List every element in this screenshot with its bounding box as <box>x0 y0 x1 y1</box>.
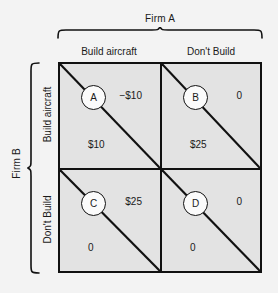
cell-node-label-c: C <box>81 191 106 216</box>
cell-node-label-a: A <box>81 85 106 110</box>
diagonal-divider-icon <box>162 170 260 271</box>
diagonal-divider-icon <box>60 64 160 168</box>
payoff-firm-a-cell-b: 0 <box>236 90 242 101</box>
diagonal-divider-icon <box>60 170 160 271</box>
payoff-firm-b-cell-d: 0 <box>190 242 196 253</box>
column-header-build-aircraft: Build aircraft <box>58 46 160 57</box>
payoff-firm-a-cell-a: −$10 <box>119 90 142 101</box>
top-brace-icon <box>56 27 264 39</box>
payoff-matrix-diagram: Firm A Firm B Build aircraft Don't Build… <box>0 0 278 293</box>
column-header-dont-build: Don't Build <box>160 46 262 57</box>
matrix-cell-c[interactable]: C $25 0 <box>60 170 160 271</box>
matrix-cell-b[interactable]: B 0 $25 <box>162 64 260 168</box>
matrix-cell-a[interactable]: A −$10 $10 <box>60 64 160 168</box>
payoff-firm-a-cell-d: 0 <box>236 196 242 207</box>
column-group-label: Firm A <box>58 13 262 24</box>
row-header-build-aircraft: Build aircraft <box>42 73 53 157</box>
row-group-label: Firm B <box>11 134 22 194</box>
matrix-cell-d[interactable]: D 0 0 <box>162 170 260 271</box>
cell-node-label-b: B <box>183 85 208 110</box>
payoff-firm-b-cell-a: $10 <box>88 139 105 150</box>
payoff-firm-a-cell-c: $25 <box>125 196 142 207</box>
row-header-dont-build: Don't Build <box>42 178 53 262</box>
diagonal-divider-icon <box>162 64 260 168</box>
payoff-firm-b-cell-c: 0 <box>88 242 94 253</box>
matrix-grid: A −$10 $10 B 0 $25 C $25 0 D <box>58 62 262 273</box>
left-brace-icon <box>27 61 40 275</box>
cell-node-label-d: D <box>183 191 208 216</box>
payoff-firm-b-cell-b: $25 <box>190 139 207 150</box>
